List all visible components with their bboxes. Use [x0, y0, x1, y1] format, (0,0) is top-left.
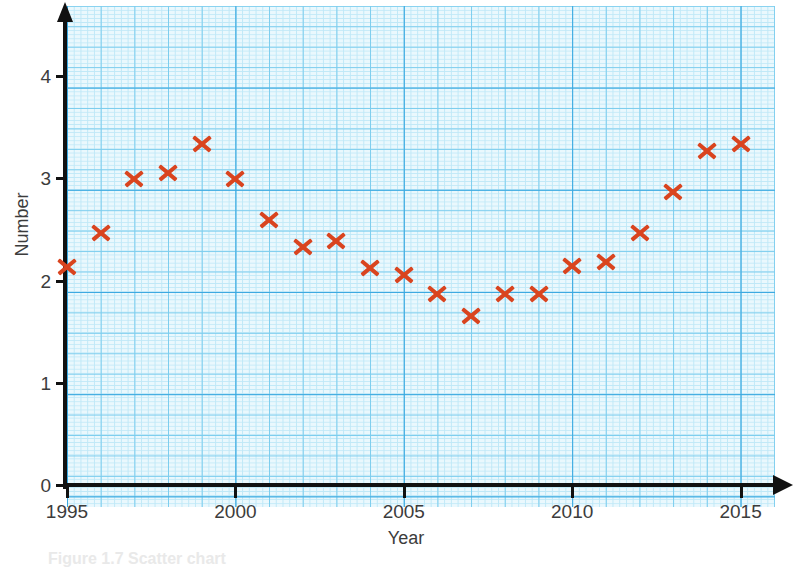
y-axis-tick — [56, 382, 67, 385]
x-axis-tick — [234, 487, 237, 498]
y-axis-tick-label: 0 — [5, 476, 51, 495]
y-axis-arrowhead-icon — [57, 2, 73, 22]
data-point-marker — [123, 167, 145, 189]
data-point-marker — [629, 222, 651, 244]
x-axis-tick-label: 1995 — [32, 502, 102, 521]
data-point-marker — [426, 283, 448, 305]
data-point-marker — [730, 133, 752, 155]
y-axis-line — [63, 18, 67, 489]
data-point-marker — [494, 283, 516, 305]
figure-caption: Figure 1.7 Scatter chart — [48, 550, 226, 568]
data-point-marker — [561, 254, 583, 276]
plot-grid-background — [67, 6, 775, 507]
data-point-marker — [157, 161, 179, 183]
x-axis-tick-label: 2015 — [706, 502, 776, 521]
x-axis-tick-label: 2000 — [200, 502, 270, 521]
x-axis-arrowhead-icon — [773, 475, 793, 495]
x-axis-line — [63, 483, 775, 487]
x-axis-tick — [740, 487, 743, 498]
data-point-marker — [224, 167, 246, 189]
data-point-marker — [595, 250, 617, 272]
data-point-marker — [292, 236, 314, 258]
x-axis-tick — [571, 487, 574, 498]
data-point-marker — [90, 222, 112, 244]
data-point-marker — [528, 283, 550, 305]
y-axis-title: Number — [12, 175, 33, 275]
x-axis-tick — [403, 487, 406, 498]
data-point-marker — [696, 140, 718, 162]
x-axis-tick-label: 2010 — [537, 502, 607, 521]
data-point-marker — [662, 181, 684, 203]
data-point-marker — [460, 304, 482, 326]
y-axis-tick-label: 4 — [5, 67, 51, 86]
x-axis-tick — [66, 487, 69, 498]
y-axis-tick — [56, 177, 67, 180]
x-axis-title: Year — [371, 528, 441, 549]
data-point-marker — [191, 133, 213, 155]
x-axis-tick-label: 2005 — [369, 502, 439, 521]
y-axis-tick — [56, 75, 67, 78]
data-point-marker — [325, 230, 347, 252]
y-axis-tick — [56, 280, 67, 283]
data-point-marker — [56, 255, 78, 277]
data-point-marker — [393, 263, 415, 285]
y-axis-tick-label: 1 — [5, 374, 51, 393]
data-point-marker — [258, 208, 280, 230]
data-point-marker — [359, 256, 381, 278]
